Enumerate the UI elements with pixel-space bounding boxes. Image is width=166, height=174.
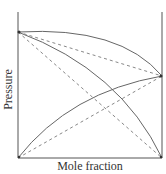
point-right-bottom	[160, 156, 162, 158]
ideal-total-line	[18, 32, 162, 76]
point-right	[160, 75, 163, 78]
point-left-top	[18, 31, 21, 34]
ideal-b-line	[18, 76, 162, 158]
raoult-diagram	[0, 0, 166, 174]
y-axis-label: Pressure	[1, 60, 16, 120]
ideal-a-line	[18, 32, 162, 158]
point-left-bottom	[18, 156, 20, 158]
x-axis-label: Mole fraction	[0, 159, 166, 174]
